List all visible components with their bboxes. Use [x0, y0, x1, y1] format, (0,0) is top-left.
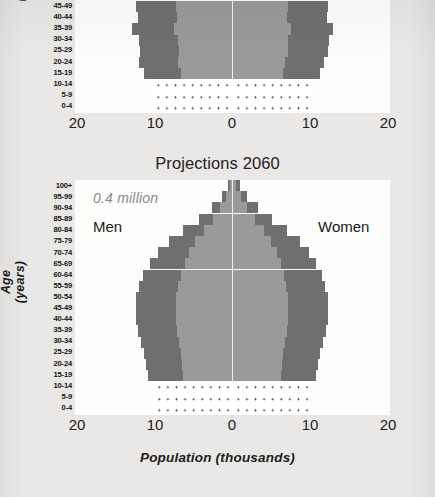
age-tick-label: 80-84 [20, 224, 72, 235]
x-axis-top: 201001020 [0, 114, 435, 140]
bar-segment-outer [139, 35, 178, 46]
bar-segment-inner [178, 281, 232, 292]
age-tick-label: 20-24 [20, 358, 72, 369]
bar-segment-outer [283, 348, 320, 359]
bar-segment-outer [158, 247, 189, 258]
bar-segment-outer [285, 337, 323, 348]
bar-segment-inner [176, 1, 232, 12]
bar-segment-stippled [232, 404, 311, 415]
age-tick-label: 5-9 [20, 89, 72, 100]
age-tick-label: 90-94 [20, 202, 72, 213]
bar-segment-outer [140, 46, 179, 57]
bar-segment-outer [183, 225, 203, 236]
bar-segment-outer [228, 180, 230, 191]
bar-segment-outer [144, 348, 181, 359]
age-tick-label: 30-34 [20, 33, 72, 44]
bar-segment-inner [232, 337, 285, 348]
x-tick-label: 20 [365, 114, 411, 131]
bar-segment-inner [181, 348, 232, 359]
bar-segment-stippled [153, 393, 232, 404]
chart-panel-top: Age (years) 100+95-9990-9485-8980-8475-7… [0, 0, 435, 140]
age-tick-label: 0-4 [20, 100, 72, 111]
age-tick-label: 35-39 [20, 22, 72, 33]
bar-segment-inner [232, 225, 264, 236]
bar-segment-outer [148, 370, 183, 381]
age-tick-label: 10-14 [20, 380, 72, 391]
bar-segment-outer [132, 23, 174, 34]
bar-segment-outer [264, 225, 287, 236]
x-tick-label: 20 [54, 114, 100, 131]
age-tick-label: 60-64 [20, 269, 72, 280]
bar-segment-inner [183, 370, 232, 381]
bar-segment-inner [178, 35, 232, 46]
bar-segment-inner [232, 247, 277, 258]
age-tick-label: 65-69 [20, 258, 72, 269]
x-tick-label: 0 [209, 114, 255, 131]
bar-segment-stippled [152, 91, 232, 102]
bar-segment-outer [288, 314, 328, 325]
bar-segment-outer [288, 1, 328, 12]
bar-segment-inner [178, 57, 232, 68]
bar-segment-outer [146, 359, 182, 370]
bar-segment-inner [232, 68, 283, 79]
age-tick-label: 15-19 [20, 67, 72, 78]
x-tick-label: 20 [365, 416, 411, 433]
bar-segment-outer [169, 236, 196, 247]
age-tick-label: 5-9 [20, 391, 72, 402]
bar-segment-inner [204, 225, 232, 236]
bar-segment-inner [176, 292, 232, 303]
bar-segment-inner [174, 23, 232, 34]
age-axis-labels-top: 100+95-9990-9485-8980-8475-7970-7465-696… [20, 0, 72, 113]
bar-segment-inner [189, 247, 232, 258]
bar-segment-stippled [152, 102, 232, 113]
bar-segment-outer [222, 191, 226, 202]
bar-segment-inner [232, 281, 286, 292]
bar-segment-outer [284, 270, 322, 281]
bar-segment-inner [232, 46, 288, 57]
bar-segment-inner [232, 12, 287, 23]
age-tick-label: 50-54 [20, 291, 72, 302]
bar-segment-inner [177, 325, 232, 336]
chart-panel-bottom: Projections 2060 Age (years) 100+95-9990… [0, 150, 435, 497]
bar-segment-stippled [232, 79, 312, 90]
bar-segment-outer [199, 214, 213, 225]
age-tick-label: 40-44 [20, 11, 72, 22]
bar-segment-inner [232, 57, 285, 68]
age-tick-label: 35-39 [20, 324, 72, 335]
x-axis-bottom: 201001020 [0, 416, 435, 442]
bar-segment-inner [185, 258, 232, 269]
bar-segment-outer [288, 35, 329, 46]
bar-segment-outer [139, 57, 178, 68]
bar-segment-outer [283, 68, 320, 79]
age-tick-label: 70-74 [20, 247, 72, 258]
bar-segment-outer [247, 202, 258, 213]
bar-segment-outer [287, 12, 327, 23]
bar-segment-outer [138, 325, 178, 336]
age-tick-label: 0-4 [20, 402, 72, 413]
bar-segment-outer [288, 303, 329, 314]
bar-segment-inner [232, 359, 282, 370]
bar-segment-inner [179, 337, 232, 348]
age-tick-label: 15-19 [20, 369, 72, 380]
center-axis-line-bottom [232, 180, 233, 415]
bar-segment-outer [287, 325, 327, 336]
bar-segment-inner [232, 314, 288, 325]
bar-segment-outer [277, 247, 309, 258]
age-tick-label: 45-49 [20, 0, 72, 11]
bar-segment-inner [220, 202, 232, 213]
bar-segment-stippled [232, 102, 312, 113]
bar-segment-outer [136, 1, 176, 12]
x-tick-label: 20 [54, 416, 100, 433]
bar-segment-outer [141, 337, 179, 348]
bar-segment-inner [232, 214, 255, 225]
bar-segment-outer [143, 270, 180, 281]
bar-segment-outer [236, 180, 239, 191]
age-tick-label: 25-29 [20, 346, 72, 357]
bar-segment-inner [213, 214, 232, 225]
bar-segment-outer [139, 281, 178, 292]
age-tick-label: 40-44 [20, 313, 72, 324]
bar-segment-outer [144, 68, 181, 79]
bar-segment-outer [136, 303, 177, 314]
x-tick-label: 10 [132, 416, 178, 433]
age-tick-label: 55-59 [20, 280, 72, 291]
